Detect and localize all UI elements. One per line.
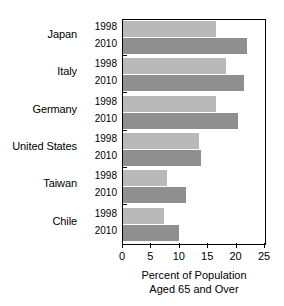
year-label-2010: 2010: [95, 150, 117, 161]
bar-2010: [123, 187, 186, 203]
bar-group: [123, 133, 265, 166]
row-label-block: Japan19982010: [0, 20, 120, 56]
country-label: Italy: [57, 65, 77, 77]
bar-2010: [123, 113, 238, 129]
bar-1998: [123, 58, 226, 74]
row-label-block: United States19982010: [0, 132, 120, 168]
x-axis-tick-mark: [150, 243, 151, 248]
year-label-2010: 2010: [95, 113, 117, 124]
country-label: Chile: [52, 215, 77, 227]
year-label-1998: 1998: [95, 170, 117, 181]
year-label-1998: 1998: [95, 96, 117, 107]
bar-group: [123, 21, 265, 54]
x-axis-tick-mark: [207, 243, 208, 248]
x-axis-tick-label: 15: [192, 250, 222, 263]
year-label-2010: 2010: [95, 38, 117, 49]
bar-1998: [123, 133, 199, 149]
year-label-2010: 2010: [95, 187, 117, 198]
bar-group: [123, 208, 265, 241]
bar-group: [123, 170, 265, 203]
category-axis-tick: [122, 55, 127, 56]
plot-area: [122, 19, 266, 245]
bar-2010: [123, 150, 201, 166]
x-axis-tick-label: 0: [107, 250, 137, 263]
x-axis-tick-label: 5: [135, 250, 165, 263]
x-axis-tick-mark: [122, 243, 123, 248]
x-axis-tick-mark: [264, 243, 265, 248]
country-label: United States: [12, 140, 77, 152]
x-axis-tick-mark: [179, 243, 180, 248]
x-axis-tick-label: 20: [221, 250, 251, 263]
x-axis-title: Percent of Population Aged 65 and Over: [112, 268, 276, 296]
x-axis-title-line-2: Aged 65 and Over: [112, 282, 276, 296]
year-label-2010: 2010: [95, 75, 117, 86]
year-label-2010: 2010: [95, 225, 117, 236]
x-axis-title-line-1: Percent of Population: [112, 268, 276, 282]
year-label-1998: 1998: [95, 133, 117, 144]
bar-2010: [123, 38, 247, 54]
bar-1998: [123, 21, 216, 37]
category-axis-tick: [122, 204, 127, 205]
country-label: Germany: [32, 103, 77, 115]
category-axis-tick: [122, 167, 127, 168]
bar-1998: [123, 170, 167, 186]
country-label: Japan: [48, 28, 77, 40]
row-label-block: Chile19982010: [0, 207, 120, 243]
country-label: Taiwan: [43, 177, 77, 189]
bar-chart-figure: Japan19982010Italy19982010Germany1998201…: [0, 0, 284, 306]
x-axis-tick-label: 25: [249, 250, 279, 263]
year-label-1998: 1998: [95, 58, 117, 69]
x-axis-tick-mark: [236, 243, 237, 248]
bar-group: [123, 96, 265, 129]
bar-2010: [123, 225, 179, 241]
x-axis-tick-label: 10: [164, 250, 194, 263]
year-label-1998: 1998: [95, 208, 117, 219]
bar-1998: [123, 96, 216, 112]
bar-1998: [123, 208, 164, 224]
row-label-block: Taiwan19982010: [0, 169, 120, 205]
bar-group: [123, 58, 265, 91]
category-axis-tick: [122, 130, 127, 131]
row-label-block: Germany19982010: [0, 95, 120, 131]
row-label-block: Italy19982010: [0, 57, 120, 93]
bar-2010: [123, 75, 244, 91]
year-label-1998: 1998: [95, 21, 117, 32]
category-axis-tick: [122, 92, 127, 93]
